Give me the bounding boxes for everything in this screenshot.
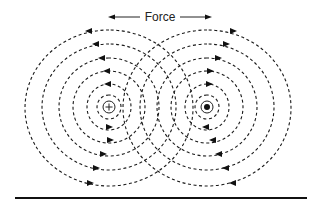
arrow-left-icon [98,55,105,61]
force-arrow-left-icon [108,15,115,20]
right-conductor [201,101,213,113]
arrow-left-icon [215,151,222,157]
arrow-left-icon [92,41,99,47]
arrow-right-icon [207,68,214,74]
arrow-left-icon [202,124,209,130]
arrow-left-icon [222,165,229,171]
arrow-right-icon [230,28,237,34]
arrow-right-icon [107,137,114,143]
arrow-left-icon [104,81,111,87]
dot-icon [204,104,210,110]
arrow-left-icon [229,180,236,186]
arrow-right-icon [223,41,230,47]
arrow-right-icon [106,124,113,130]
force-arrow-right-icon [205,15,212,20]
arrow-right-icon [93,165,100,171]
field-diagram: Force [0,0,318,204]
force-label: Force [145,10,176,24]
arrow-right-icon [215,55,222,61]
arrow-right-icon [206,81,213,87]
force-indicator: Force [108,10,212,24]
arrow-left-icon [103,68,110,74]
left-conductor [103,101,115,113]
arrow-right-icon [87,180,94,186]
